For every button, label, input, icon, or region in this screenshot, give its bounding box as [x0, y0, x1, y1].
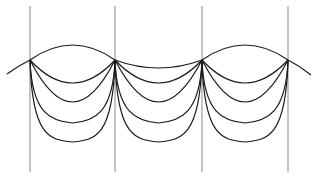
- span-2-hanging-curve-1: [115, 60, 202, 83]
- span-2-hanging-curve-2: [115, 60, 202, 102]
- span-2-hanging-curve-3: [115, 60, 202, 123]
- span-1-hanging-curve-2: [30, 60, 115, 102]
- span-1-hanging-curve-1: [30, 60, 115, 83]
- span-1-hanging-curve-3: [30, 60, 115, 123]
- top-cable-line: [7, 45, 311, 75]
- span-3-hanging-curve-1: [202, 60, 288, 83]
- hanging-curves: [30, 60, 288, 142]
- span-3-hanging-curve-2: [202, 60, 288, 102]
- vertical-supports: [30, 6, 288, 172]
- hanging-curves-diagram: [0, 0, 313, 180]
- span-3-hanging-curve-3: [202, 60, 288, 123]
- top-cable: [7, 45, 311, 75]
